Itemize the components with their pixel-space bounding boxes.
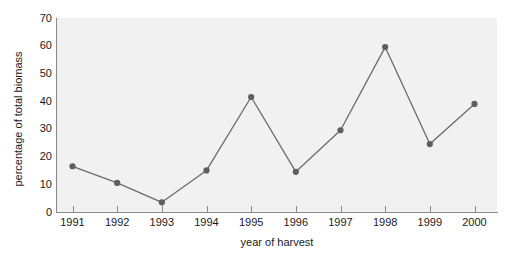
plot-area <box>57 18 497 212</box>
data-point-1995 <box>248 94 254 100</box>
y-tick-label-30: 30 <box>0 123 52 134</box>
x-tick-mark-1997 <box>341 206 342 213</box>
y-axis-line <box>56 18 57 213</box>
x-tick-mark-1998 <box>385 206 386 213</box>
series-line-biomass <box>73 47 475 202</box>
x-tick-mark-1999 <box>430 206 431 213</box>
data-point-1991 <box>69 163 75 169</box>
y-tick-label-40: 40 <box>0 96 52 107</box>
y-tick-label-20: 20 <box>0 151 52 162</box>
x-tick-mark-1991 <box>73 206 74 213</box>
x-axis-title: year of harvest <box>57 236 497 248</box>
x-tick-mark-1996 <box>296 206 297 213</box>
data-point-1997 <box>337 127 343 133</box>
series-markers <box>69 44 477 205</box>
y-tick-label-10: 10 <box>0 179 52 190</box>
data-point-1993 <box>159 199 165 205</box>
x-axis-line <box>56 212 498 213</box>
data-point-1994 <box>203 167 209 173</box>
x-tick-mark-1995 <box>251 206 252 213</box>
y-axis-title: percentage of total biomass <box>12 22 24 216</box>
x-tick-label-2000: 2000 <box>447 216 503 228</box>
y-tick-label-70: 70 <box>0 13 52 24</box>
data-point-1999 <box>427 141 433 147</box>
x-tick-mark-1994 <box>207 206 208 213</box>
data-point-1998 <box>382 44 388 50</box>
x-tick-mark-1993 <box>162 206 163 213</box>
data-point-1992 <box>114 180 120 186</box>
line-chart: 010203040506070 199119921993199419951996… <box>0 0 515 254</box>
x-tick-mark-1992 <box>117 206 118 213</box>
data-point-1996 <box>293 169 299 175</box>
y-tick-label-60: 60 <box>0 40 52 51</box>
x-tick-mark-2000 <box>475 206 476 213</box>
data-point-2000 <box>471 101 477 107</box>
series-plot <box>57 18 497 212</box>
y-tick-label-50: 50 <box>0 68 52 79</box>
